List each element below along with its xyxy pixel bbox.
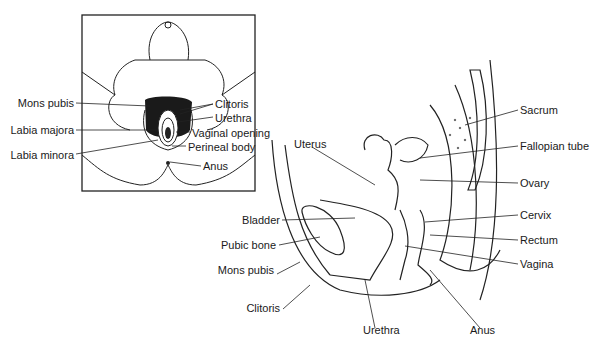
anatomy-illustration [0,0,605,351]
sagittal-figure [272,60,500,300]
label-rectum: Rectum [520,234,558,246]
label-clitoris-sagittal: Clitoris [200,302,280,314]
label-fallopian-tube: Fallopian tube [520,140,589,152]
label-perineal-body: Perineal body [188,141,255,153]
label-anus-sagittal: Anus [470,324,495,336]
label-mons-pubis-inset: Mons pubis [6,97,74,109]
label-anus-inset: Anus [203,160,228,172]
label-vagina: Vagina [520,258,553,270]
label-uterus: Uterus [294,138,326,150]
label-clitoris-inset: Clitoris [215,98,249,110]
label-labia-majora: Labia majora [6,124,74,136]
label-pubic-bone: Pubic bone [196,239,276,251]
label-cervix: Cervix [520,209,551,221]
label-sacrum: Sacrum [520,104,558,116]
label-urethra-sagittal: Urethra [363,324,400,336]
label-labia-minora: Labia minora [6,149,74,161]
label-mons-pubis-sagittal: Mons pubis [194,264,274,276]
label-urethra-inset: Urethra [215,112,252,124]
label-vaginal-opening: Vaginal opening [192,127,270,139]
label-bladder: Bladder [200,214,280,226]
label-ovary: Ovary [520,177,549,189]
